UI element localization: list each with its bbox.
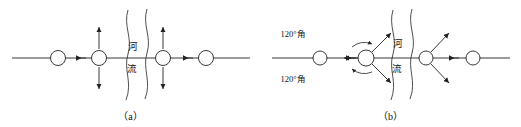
node-circle-2-b	[358, 50, 374, 66]
river-wave-right-a	[145, 9, 148, 99]
angle-label-upper-b: 120°角	[280, 29, 305, 39]
river-wave-left-b	[391, 10, 394, 100]
node-circle-4-a	[199, 51, 214, 66]
diagram-panel-b: 河 流	[260, 0, 521, 127]
river-wave-left-a	[126, 10, 129, 100]
figure-root: 河 流 （a）	[0, 0, 521, 127]
arrow-120-lower-b	[372, 64, 391, 83]
arrow-120-upper-b	[372, 33, 391, 52]
node-circle-1-a	[51, 51, 66, 66]
river-waves-a	[126, 9, 148, 100]
node-circle-4-b	[466, 51, 480, 65]
diagram-b-svg: 河 流	[260, 0, 521, 110]
arrow-lower-node3-b	[431, 64, 449, 83]
arrow-upper-node3-b	[431, 33, 449, 52]
node-circle-3-b	[419, 51, 433, 65]
diagram-a-svg: 河 流	[0, 0, 261, 110]
river-waves-b	[391, 9, 413, 100]
panel-b-caption: （b）	[260, 108, 521, 123]
node-circle-1-b	[313, 51, 327, 65]
diagram-panel-a: 河 流 （a）	[0, 0, 261, 127]
node-circle-2-a	[92, 51, 107, 66]
river-label-char-1-a: 河	[128, 41, 138, 52]
angle-arc-upper-b	[352, 43, 372, 47]
river-label-char-1-b: 河	[393, 38, 403, 49]
node-circle-3-a	[156, 51, 171, 66]
panel-a-caption: （a）	[0, 108, 261, 123]
river-label-char-2-b: 流	[392, 63, 402, 74]
river-label-char-2-a: 流	[127, 63, 137, 74]
river-wave-right-b	[410, 9, 413, 99]
angle-arc-lower-b	[352, 69, 372, 73]
angle-label-lower-b: 120°角	[280, 74, 305, 84]
